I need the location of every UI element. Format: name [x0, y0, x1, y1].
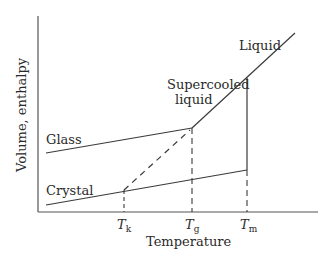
- volume-enthalpy-diagram: Liquid Supercooled liquid Glass Crystal …: [0, 0, 332, 258]
- crystal-label: Crystal: [46, 183, 93, 198]
- y-axis-title: Volume, enthalpy: [14, 57, 29, 173]
- tm-tick-label: Tm: [240, 217, 258, 234]
- glass-label: Glass: [46, 132, 82, 147]
- liquid-label: Liquid: [239, 38, 281, 53]
- supercooled-label-line1: Supercooled: [167, 77, 250, 92]
- kauzmann-extrapolation-dashed: [124, 130, 190, 190]
- supercooled-label-line2: liquid: [175, 92, 213, 107]
- tg-tick-label: Tg: [185, 217, 200, 234]
- tk-tick-label: Tk: [117, 217, 132, 234]
- x-axis-title: Temperature: [146, 234, 231, 249]
